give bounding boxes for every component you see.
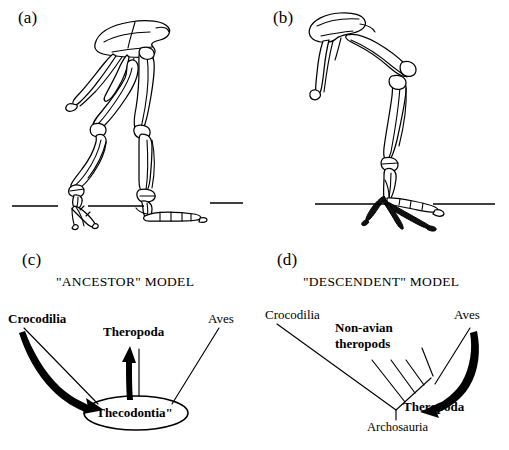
figure-root: (a) [0, 0, 509, 450]
panel-a: (a) [0, 0, 255, 232]
bird-hindlimb-skeleton [255, 0, 509, 232]
taxon-theropods-d: theropods [335, 337, 390, 351]
branch-theropod-twig-4 [422, 348, 433, 376]
theropod-hindlimb-skeleton [0, 0, 255, 232]
taxon-crocodilia-d: Crocodilia [265, 308, 320, 322]
taxon-archosauria-d: Archosauria [367, 421, 428, 435]
branch-theropod-twig-3 [406, 360, 424, 385]
arrow-theropoda-up [122, 346, 136, 400]
arrow-crocodilia-curved [19, 331, 91, 413]
taxon-theropoda-d: Theropoda [403, 400, 464, 414]
taxon-crocodilia-c: Crocodilia [8, 312, 66, 326]
panel-b: (b) [255, 0, 509, 232]
panel-d: (d) "DESCENDENT" MODEL Crocodilia Non-av… [255, 232, 509, 450]
panel-c: (c) "ANCESTOR" MODEL Crocodilia Theropod… [0, 232, 255, 450]
taxon-aves-c: Aves [208, 312, 234, 326]
taxon-nonavian-d: Non-avian [335, 321, 393, 335]
branch-aves-d [435, 328, 470, 384]
taxon-thecodontia-c: "Thecodontia" [89, 406, 173, 420]
taxon-aves-d: Aves [454, 308, 480, 322]
branch-aves-to-thecodontia [172, 328, 219, 404]
taxon-theropoda-c: Theropoda [103, 325, 164, 339]
